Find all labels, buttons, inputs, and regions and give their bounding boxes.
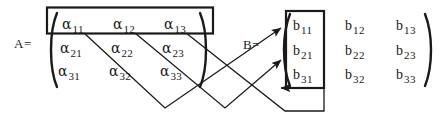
matrix-a-right-paren (200, 13, 206, 87)
matrix-mapping-figure: A= B= α11 α12 α13 α21 α22 α23 α31 α32 α3… (0, 0, 448, 113)
connector-alpha12-to-b21 (135, 33, 281, 108)
matrix-a-row1-highlight-box (47, 8, 213, 34)
matrix-a-left-paren (51, 13, 57, 87)
figure-graphics-layer (0, 0, 448, 113)
matrix-b-right-paren (425, 14, 431, 86)
matrix-b-col1-highlight-box (286, 11, 324, 88)
connector-alpha11-to-b11 (84, 28, 281, 108)
